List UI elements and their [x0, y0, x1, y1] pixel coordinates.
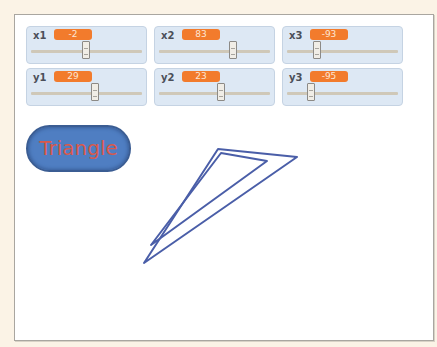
- slider-value-y3: -95: [310, 71, 348, 82]
- slider-value-y1: 29: [54, 71, 92, 82]
- slider-x2: x2 83: [154, 26, 275, 64]
- slider-x1: x1 -2: [26, 26, 147, 64]
- slider-track-x2[interactable]: [159, 50, 270, 53]
- slider-label-y2: y2: [161, 72, 174, 83]
- slider-label-x1: x1: [33, 30, 46, 41]
- slider-track-y3[interactable]: [287, 92, 398, 95]
- slider-thumb-x2[interactable]: [229, 41, 237, 59]
- slider-y2: y2 23: [154, 68, 275, 106]
- slider-thumb-y3[interactable]: [307, 83, 315, 101]
- slider-value-x1: -2: [54, 29, 92, 40]
- outer-triangle: [144, 149, 297, 263]
- slider-label-x3: x3: [289, 30, 302, 41]
- slider-thumb-x1[interactable]: [82, 41, 90, 59]
- slider-thumb-y2[interactable]: [217, 83, 225, 101]
- inner-triangle: [151, 153, 267, 245]
- slider-track-y2[interactable]: [159, 92, 270, 95]
- slider-label-x2: x2: [161, 30, 174, 41]
- slider-thumb-y1[interactable]: [91, 83, 99, 101]
- slider-label-y1: y1: [33, 72, 46, 83]
- slider-x3: x3 -93: [282, 26, 403, 64]
- slider-y1: y1 29: [26, 68, 147, 106]
- slider-label-y3: y3: [289, 72, 302, 83]
- slider-y3: y3 -95: [282, 68, 403, 106]
- slider-value-x2: 83: [182, 29, 220, 40]
- slider-thumb-x3[interactable]: [313, 41, 321, 59]
- triangle-button[interactable]: Triangle: [26, 125, 131, 172]
- stage: x1 -2 x2 83 x3 -93 y1 29 y2 23 y3 -95 Tr…: [14, 14, 434, 341]
- slider-track-y1[interactable]: [31, 92, 142, 95]
- drawing-canvas: [15, 15, 435, 342]
- slider-value-x3: -93: [310, 29, 348, 40]
- slider-track-x3[interactable]: [287, 50, 398, 53]
- slider-value-y2: 23: [182, 71, 220, 82]
